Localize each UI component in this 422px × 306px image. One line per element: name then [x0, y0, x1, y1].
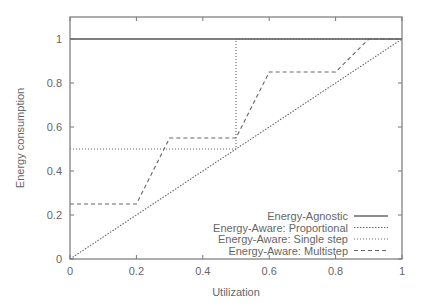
legend: Energy-AgnosticEnergy-Aware: Proportiona…	[213, 210, 388, 257]
y-tick-label: 0.8	[47, 77, 62, 89]
y-tick-label: 0.2	[47, 209, 62, 221]
y-tick-label: 0.6	[47, 121, 62, 133]
x-tick-label: 0.8	[328, 265, 343, 277]
legend-label: Energy-Aware: Proportional	[213, 222, 348, 234]
x-axis-label: Utilization	[212, 286, 260, 298]
x-tick-label: 0.6	[262, 265, 277, 277]
y-tick-label: 1	[56, 33, 62, 45]
legend-label: Energy-Aware: Single step	[218, 233, 348, 245]
x-tick-label: 0.2	[129, 265, 144, 277]
y-tick-label: 0	[56, 253, 62, 265]
x-tick-label: 0	[67, 265, 73, 277]
x-tick-label: 0.4	[195, 265, 210, 277]
series-line-3	[70, 39, 402, 204]
line-chart: 00.20.40.60.8100.20.40.60.81 Utilization…	[0, 0, 422, 306]
x-tick-label: 1	[399, 265, 405, 277]
series-line-2	[70, 39, 402, 149]
legend-label: Energy-Agnostic	[267, 210, 348, 222]
legend-label: Energy-Aware: Multistep	[228, 245, 348, 257]
y-axis-label: Energy consumption	[14, 88, 26, 188]
y-tick-label: 0.4	[47, 165, 62, 177]
